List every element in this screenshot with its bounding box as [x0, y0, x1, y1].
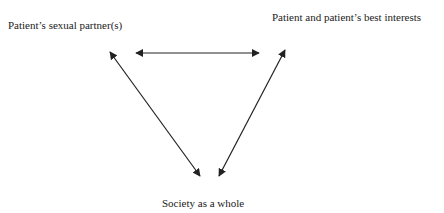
double-arrow-patient-society — [219, 50, 285, 176]
double-arrow-partner-society — [110, 52, 200, 176]
relationship-diagram — [0, 0, 444, 213]
